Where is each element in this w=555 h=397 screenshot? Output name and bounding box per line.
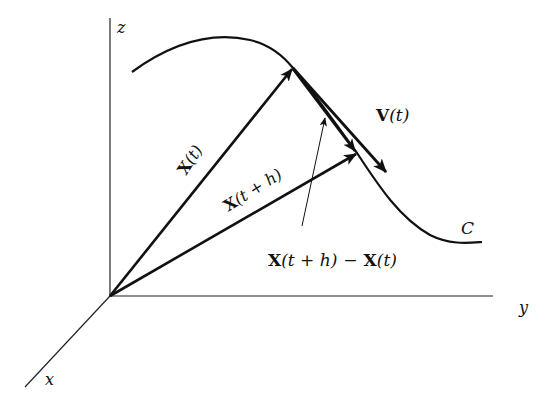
- label-difference: X(t + h)−X(t): [268, 250, 397, 270]
- z-axis-label: z: [116, 18, 126, 37]
- x-axis-label: x: [45, 370, 54, 389]
- y-axis-label: y: [518, 298, 529, 317]
- label-x-t-plus-h: X(t + h): [220, 165, 285, 216]
- vector-difference: [293, 69, 355, 151]
- label-x-t: X(t): [173, 142, 206, 179]
- vector-x-t-plus-h: [110, 154, 356, 296]
- x-axis: [25, 296, 110, 387]
- label-velocity: V(t): [375, 105, 409, 125]
- curve-c-label: C: [461, 218, 474, 238]
- vector-velocity: [293, 68, 386, 172]
- curve-c: [132, 37, 482, 243]
- vector-diagram: z y x C X(t) X(t + h) V(t) X(t + h)−X(t): [0, 0, 555, 397]
- axes: [25, 18, 493, 387]
- difference-pointer: [302, 118, 325, 226]
